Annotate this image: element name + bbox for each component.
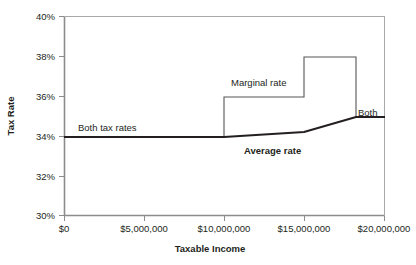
x-tick-label-10m: $10,000,000 — [198, 223, 251, 234]
annotation-both-tax-rates: Both tax rates — [78, 122, 137, 133]
annotation-average-rate: Average rate — [244, 145, 301, 156]
y-tick-label-40: 40% — [36, 11, 56, 22]
y-tick-label-32: 32% — [36, 171, 56, 182]
y-tick-label-30: 30% — [36, 210, 56, 221]
x-axis-title: Taxable Income — [175, 243, 246, 254]
annotation-both: Both — [358, 107, 378, 118]
x-tick-labels: $0 $5,000,000 $10,000,000 $15,000,000 $2… — [59, 223, 411, 234]
x-tick-label-15m: $15,000,000 — [278, 223, 331, 234]
y-tick-label-36: 36% — [36, 91, 56, 102]
y-axis-title: Tax Rate — [5, 97, 16, 136]
y-tick-label-38: 38% — [36, 51, 56, 62]
tax-rate-chart: 40% 38% 36% 34% 32% 30% $0 $5,000,000 $1… — [0, 0, 416, 265]
annotation-marginal-rate: Marginal rate — [231, 77, 286, 88]
y-ticks — [59, 17, 64, 216]
y-tick-label-34: 34% — [36, 131, 56, 142]
x-tick-label-0: $0 — [59, 223, 70, 234]
x-ticks — [65, 216, 385, 221]
y-tick-labels: 40% 38% 36% 34% 32% 30% — [36, 11, 56, 221]
x-tick-label-20m: $20,000,000 — [358, 223, 411, 234]
chart-canvas: 40% 38% 36% 34% 32% 30% $0 $5,000,000 $1… — [0, 0, 416, 265]
x-tick-label-5m: $5,000,000 — [120, 223, 168, 234]
